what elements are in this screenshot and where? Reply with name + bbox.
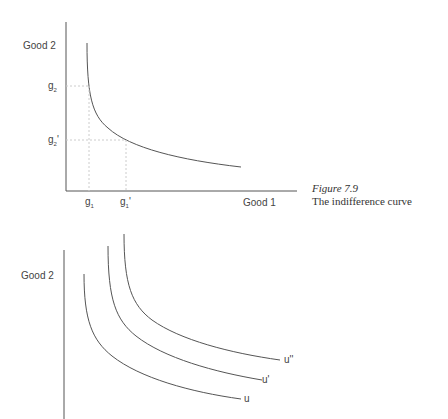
fig1-y-axis-label: Good 2 bbox=[23, 40, 56, 51]
fig2-curve-u-prime bbox=[108, 246, 262, 380]
fig2-y-axis-label: Good 2 bbox=[21, 270, 54, 281]
fig1-x-axis-label: Good 1 bbox=[243, 197, 276, 208]
diagram-canvas bbox=[0, 0, 448, 419]
fig1-indifference-curve bbox=[87, 43, 241, 167]
fig1-tick-g2-prime: g2' bbox=[48, 134, 59, 147]
fig1-tick-g2: g2 bbox=[48, 80, 57, 93]
fig1-tick-g1-prime: g1' bbox=[120, 196, 131, 209]
fig2-curve-u-double-prime bbox=[124, 234, 280, 360]
fig2-label-u-prime: u' bbox=[262, 374, 269, 385]
figure-number: Figure 7.9 bbox=[312, 182, 358, 194]
tick-sub: 2 bbox=[54, 87, 57, 93]
fig2-label-u: u bbox=[244, 393, 250, 404]
tick-sub: 1 bbox=[91, 203, 94, 209]
fig1-tick-g1: g1 bbox=[85, 196, 94, 209]
figure-title: The indifference curve bbox=[312, 195, 412, 208]
tick-prime: ' bbox=[57, 134, 59, 145]
tick-prime: ' bbox=[129, 196, 131, 207]
fig2-curve-u bbox=[84, 274, 241, 399]
fig1-caption: Figure 7.9 The indifference curve bbox=[312, 182, 412, 208]
fig2-label-u-double-prime: u'' bbox=[284, 354, 293, 365]
